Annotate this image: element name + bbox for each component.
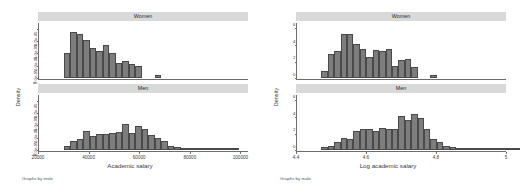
histogram-bar (135, 66, 142, 78)
y-tick-label: 6 (293, 93, 295, 98)
y-tick-label: 4 (293, 110, 295, 115)
bar-offset-spacer (40, 77, 64, 78)
x-tick-label: 4.8 (433, 155, 439, 160)
figure-note-right: Graphs by male (280, 176, 311, 181)
plot-area-women-right: 0246 (296, 23, 506, 80)
x-tick-mark (436, 152, 437, 154)
histogram-bars-women-right (298, 23, 506, 78)
y-axis-title-right: Density (273, 87, 279, 106)
y-tick-mark (295, 134, 297, 135)
y-tick-label: 6.0e-05 (33, 116, 38, 131)
x-axis-title-left: Academic salary (8, 162, 252, 169)
figure-note-left: Graphs by male (22, 176, 53, 181)
y-tick-mark (295, 78, 297, 79)
y-tick-label: 8.0e-05 (33, 104, 38, 119)
y-tick-mark (295, 45, 297, 46)
histogram-bar (411, 67, 417, 79)
x-tick-mark (296, 152, 297, 154)
x-tick-label: 40000 (82, 155, 95, 160)
facet-title-women-right: Women (296, 12, 506, 21)
y-tick-label: 6 (293, 21, 295, 26)
y-tick-label: 4 (293, 38, 295, 43)
facet-title-men-left: Men (38, 84, 248, 93)
y-axis-title-left: Density (15, 87, 21, 106)
y-tick-mark (37, 29, 39, 30)
facet-men-left: Men 02.0e-054.0e-056.0e-058.0e-05 (38, 84, 248, 152)
y-tick-label: 2 (293, 127, 295, 132)
y-tick-label: 8.0e-05 (33, 32, 38, 47)
x-tick-mark (190, 152, 191, 154)
chart-log-academic-salary: Density Women 0246 Men 0246 4.44.64.85 L… (266, 6, 510, 187)
facet-men-right: Men 0246 (296, 84, 506, 152)
bar-offset-spacer (40, 149, 64, 150)
x-axis-title-right: Log academic salary (266, 162, 510, 169)
facet-women-left: Women 02.0e-054.0e-056.0e-058.0e-05 (38, 12, 248, 80)
x-tick-label: 5 (505, 155, 508, 160)
x-tick-label: 80000 (183, 155, 196, 160)
bar-offset-spacer (298, 149, 322, 150)
y-tick-mark (295, 150, 297, 151)
y-tick-label: 2.0e-05 (33, 141, 38, 156)
plot-area-men-left: 02.0e-054.0e-056.0e-058.0e-05 (38, 95, 248, 152)
x-tick-mark (366, 152, 367, 154)
x-tick-label: 4.4 (293, 155, 299, 160)
x-tick-mark (139, 152, 140, 154)
y-tick-mark (295, 117, 297, 118)
plot-area-women-left: 02.0e-054.0e-056.0e-058.0e-05 (38, 23, 248, 80)
y-tick-label: 2 (293, 55, 295, 60)
y-tick-mark (295, 100, 297, 101)
histogram-bars-men-right (298, 95, 506, 150)
histogram-bars-women-left (40, 23, 248, 78)
y-tick-label: 0 (293, 72, 295, 77)
x-tick-label: 100000 (233, 155, 248, 160)
x-tick-label: 20000 (32, 155, 45, 160)
histogram-bar (233, 148, 240, 150)
x-tick-label: 4.6 (363, 155, 369, 160)
plot-area-men-right: 0246 (296, 95, 506, 152)
y-tick-label: 0 (293, 144, 295, 149)
y-tick-mark (295, 62, 297, 63)
facet-title-men-right: Men (296, 84, 506, 93)
y-tick-label: 6.0e-05 (33, 44, 38, 59)
histogram-bar (430, 75, 436, 78)
histogram-bar (514, 148, 520, 150)
x-tick-label: 60000 (133, 155, 146, 160)
x-tick-mark (89, 152, 90, 154)
histogram-bars-men-left (40, 95, 248, 150)
x-tick-mark (38, 152, 39, 154)
y-tick-mark (37, 101, 39, 102)
facet-title-women-left: Women (38, 12, 248, 21)
bar-offset-spacer (298, 77, 322, 78)
y-tick-label: 2.0e-05 (33, 69, 38, 84)
y-tick-mark (295, 28, 297, 29)
chart-academic-salary: Density Women 02.0e-054.0e-056.0e-058.0e… (8, 6, 252, 187)
facet-women-right: Women 0246 (296, 12, 506, 80)
histogram-bar (155, 75, 162, 79)
x-tick-mark (240, 152, 241, 154)
x-tick-mark (506, 152, 507, 154)
